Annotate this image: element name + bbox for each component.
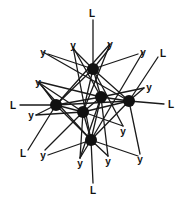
terminal-label-l_lower_left: L	[20, 148, 26, 159]
terminal-label-y_tl1: y	[40, 47, 46, 58]
edge	[91, 140, 93, 183]
terminal-label-y_tr1: y	[107, 39, 113, 50]
terminal-label-l_top: L	[89, 8, 95, 19]
terminal-label-y_b1: y	[77, 158, 83, 169]
terminal-label-y_tl2: y	[70, 40, 76, 51]
terminal-label-y_right_mid: y	[146, 82, 152, 93]
terminal-label-y_right_low: y	[120, 126, 126, 137]
hub-node-n2	[50, 99, 62, 111]
terminal-label-y_bl: y	[40, 150, 46, 161]
terminal-label-l_left: L	[10, 100, 16, 111]
edge	[36, 112, 83, 115]
terminal-label-y_b2: y	[105, 156, 111, 167]
terminal-label-l_bottom: L	[90, 185, 96, 196]
hub-node-n1	[87, 63, 99, 75]
terminal-label-l_upper_right: L	[160, 48, 166, 59]
terminal-label-y_br: y	[137, 154, 143, 165]
edge	[129, 57, 158, 101]
hub-node-n4	[123, 95, 135, 107]
terminal-label-y_tr2: y	[140, 47, 146, 58]
hub-node-n3	[95, 91, 107, 103]
edge	[48, 140, 91, 155]
hub-node-n6	[85, 134, 97, 146]
edge	[129, 101, 140, 154]
terminal-label-y_left_mid: y	[35, 77, 41, 88]
terminal-label-l_right: L	[168, 99, 174, 110]
edge	[91, 140, 138, 156]
network-diagram: LyyyyLyyLLyyLyyyyL	[0, 0, 182, 202]
terminal-label-y_left_low: y	[28, 110, 34, 121]
hub-node-n5	[77, 106, 89, 118]
